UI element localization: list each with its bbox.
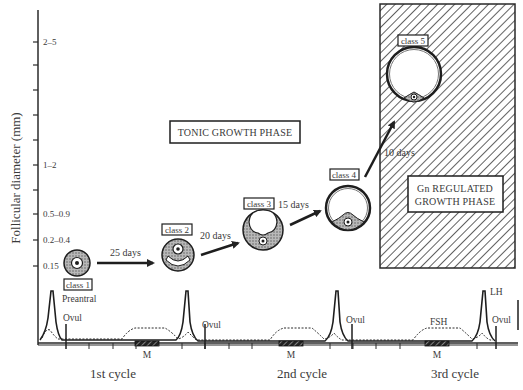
ovul-label-3: Ovul (346, 315, 365, 325)
transition-label-20-days: 20 days (200, 230, 231, 241)
cycle-label-2: 2nd cycle (277, 366, 327, 381)
cycle-label-1: 1st cycle (90, 366, 136, 381)
y-tick-label: 0.5–0.9 (43, 209, 71, 219)
ovul-label-1: Ovul (63, 313, 82, 323)
class-4-label: class 4 (332, 170, 357, 180)
ovul-label-4: Ovul (492, 315, 511, 325)
follicle-class-2: class 2 (162, 224, 194, 271)
lh-curve (40, 291, 495, 341)
class-5-label: class 5 (401, 36, 426, 46)
transition-label-10-days: 10 days (384, 147, 415, 158)
menses-label-2: M (287, 350, 296, 360)
y-tick-label: 1–2 (43, 160, 57, 170)
preantral-label: Preantral (62, 294, 97, 304)
follicle-class-4: class 4 (326, 169, 370, 230)
y-tick-label: 0.2–0.4 (43, 235, 71, 245)
menses-label-3: M (433, 350, 442, 360)
transition-label-25-days: 25 days (110, 247, 141, 258)
gn-phase-label-1: Gn REGULATED (417, 183, 493, 194)
fsh-label: FSH (430, 317, 448, 327)
menses-label-1: M (143, 350, 152, 360)
gn-phase-box: Gn REGULATED GROWTH PHASE (408, 176, 503, 212)
lh-label: LH (490, 287, 503, 297)
transition-label-15-days: 15 days (278, 199, 309, 210)
ovul-label-2: Ovul (202, 320, 221, 330)
fsh-curve (42, 328, 493, 340)
follicle-growth-diagram: 2–51–20.5–0.90.2–0.40.15 Follicular diam… (0, 0, 523, 390)
class-1-label: class 1 (66, 280, 90, 290)
follicle-class-3: class 3 (243, 198, 283, 250)
follicle-class-1: class 1 Preantral (62, 250, 97, 304)
class-3-label: class 3 (247, 199, 272, 209)
y-tick-label: 0.15 (43, 261, 59, 271)
y-tick-label: 2–5 (43, 37, 57, 47)
class-2-label: class 2 (165, 225, 189, 235)
tonic-phase-box: TONIC GROWTH PHASE (170, 121, 300, 143)
tonic-phase-label: TONIC GROWTH PHASE (178, 127, 293, 138)
y-axis-label: Follicular diameter (mm) (8, 112, 23, 243)
gn-phase-label-2: GROWTH PHASE (415, 196, 495, 207)
cycle-label-3: 3rd cycle (431, 366, 479, 381)
